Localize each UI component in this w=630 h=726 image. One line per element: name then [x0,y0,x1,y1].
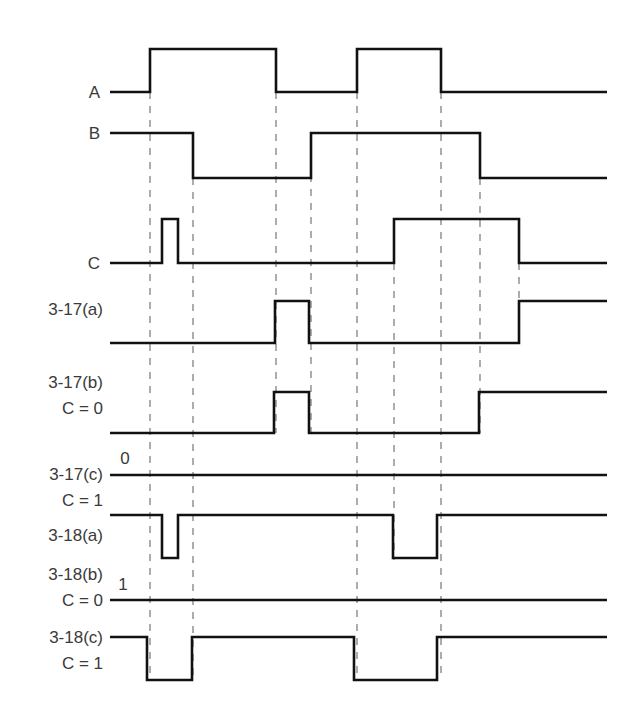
signal-label: B [89,124,100,143]
timing-diagram: ABC3-17(a)3-17(b)C = 03-17(c)C = 103-18(… [0,0,630,726]
waveform-3-18a [110,515,607,558]
signal-labels: ABC3-17(a)3-17(b)C = 03-17(c)C = 103-18(… [48,83,130,673]
waveform-3-18c [110,637,607,680]
signal-label: C = 1 [62,654,103,673]
signal-label: 3-18(c) [49,628,103,647]
waveform-3-17a [110,301,607,343]
signal-label: A [89,83,101,102]
level-value-label: 0 [120,449,129,468]
signal-label: C [88,254,100,273]
signal-label: 3-17(a) [48,300,103,319]
signal-waveforms [110,49,607,680]
waveform-B [110,133,607,178]
waveform-3-17b [110,392,607,433]
waveform-C [110,219,607,263]
signal-label: 3-18(b) [48,565,103,584]
dashed-reference-lines [150,92,519,680]
signal-label: 3-17(b) [48,373,103,392]
signal-label: C = 0 [62,399,103,418]
level-value-label: 1 [118,575,127,594]
signal-label: C = 1 [62,491,103,510]
waveform-A [110,49,607,92]
signal-label: C = 0 [62,591,103,610]
signal-label: 3-18(a) [48,526,103,545]
signal-label: 3-17(c) [49,465,103,484]
